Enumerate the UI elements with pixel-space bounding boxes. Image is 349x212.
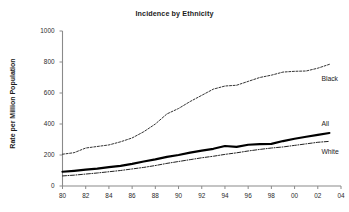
y-tick-label: 1000 xyxy=(29,27,55,34)
x-tick-label: 90 xyxy=(169,192,189,199)
x-tick-label: 98 xyxy=(261,192,281,199)
series-label-black: Black xyxy=(321,75,338,82)
y-tick-label: 800 xyxy=(29,58,55,65)
x-tick-label: 04 xyxy=(331,192,349,199)
y-tick-label: 200 xyxy=(29,151,55,158)
x-tick-label: 96 xyxy=(238,192,258,199)
series-line-white xyxy=(63,141,330,176)
chart-figure: Incidence by Ethnicity Rate per Million … xyxy=(0,0,349,212)
x-tick-label: 84 xyxy=(99,192,119,199)
series-line-all xyxy=(63,133,330,172)
series-label-white: White xyxy=(321,148,338,155)
series-label-all: All xyxy=(321,120,329,127)
x-tick-label: 92 xyxy=(192,192,212,199)
x-tick-label: 82 xyxy=(76,192,96,199)
y-tick-label: 600 xyxy=(29,89,55,96)
y-tick-label: 0 xyxy=(29,182,55,189)
x-tick-label: 00 xyxy=(285,192,305,199)
x-tick-label: 80 xyxy=(53,192,73,199)
x-tick-label: 86 xyxy=(122,192,142,199)
x-tick-label: 88 xyxy=(145,192,165,199)
x-tick-label: 94 xyxy=(215,192,235,199)
x-tick-label: 02 xyxy=(308,192,328,199)
y-tick-label: 400 xyxy=(29,120,55,127)
